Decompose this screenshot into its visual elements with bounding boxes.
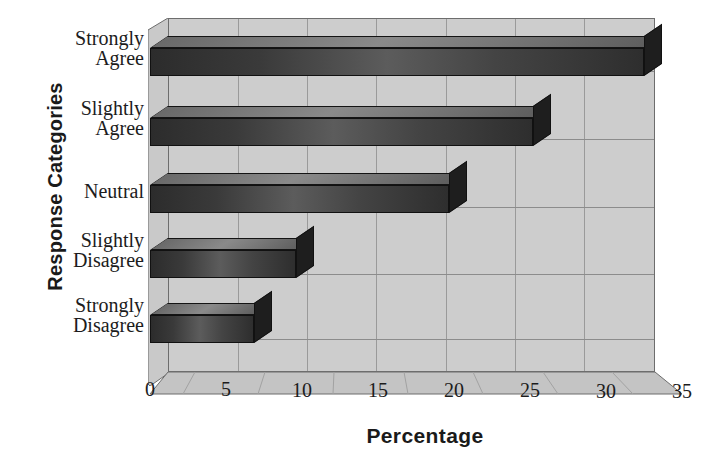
bar-front-face: [150, 315, 254, 343]
y-category-label-line: Slightly: [14, 230, 144, 250]
bar-front-face: [150, 185, 449, 213]
bar: [150, 250, 296, 278]
y-category-label: StronglyDisagree: [14, 295, 144, 336]
bar-front-face: [150, 48, 644, 76]
bar: [150, 48, 644, 76]
y-category-label-line: Disagree: [14, 250, 144, 270]
bar: [150, 118, 533, 146]
y-category-label-line: Strongly: [14, 295, 144, 315]
y-category-label: SlightlyDisagree: [14, 230, 144, 271]
y-category-label-line: Agree: [14, 118, 144, 138]
y-category-label: Neutral: [14, 181, 144, 201]
y-axis-category-labels: StronglyAgreeSlightlyAgreeNeutralSlightl…: [12, 0, 144, 400]
x-tick-label: 30: [586, 380, 626, 403]
y-category-label: SlightlyAgree: [14, 98, 144, 139]
bar-top-face: [150, 36, 662, 48]
x-tick-label: 10: [282, 379, 322, 402]
bar-top-face: [150, 106, 550, 118]
chart-canvas: Response Categories: [0, 0, 702, 470]
y-category-label-line: Disagree: [14, 315, 144, 335]
y-category-label-line: Strongly: [14, 28, 144, 48]
x-tick-label: 15: [358, 379, 398, 402]
x-tick-label: 5: [206, 378, 246, 401]
x-tick-label: 20: [434, 379, 474, 402]
y-category-label-line: Neutral: [14, 181, 144, 201]
bar-front-face: [150, 118, 533, 146]
bar-top-face: [150, 173, 467, 185]
bar: [150, 315, 254, 343]
x-axis-title: Percentage: [300, 424, 550, 448]
bar-front-face: [150, 250, 296, 278]
x-tick-label: 25: [510, 379, 550, 402]
x-tick-label: 35: [662, 380, 702, 403]
y-category-label-line: Agree: [14, 48, 144, 68]
y-category-label-line: Slightly: [14, 98, 144, 118]
bar: [150, 185, 449, 213]
y-category-label: StronglyAgree: [14, 28, 144, 69]
bar-top-face: [150, 238, 314, 250]
